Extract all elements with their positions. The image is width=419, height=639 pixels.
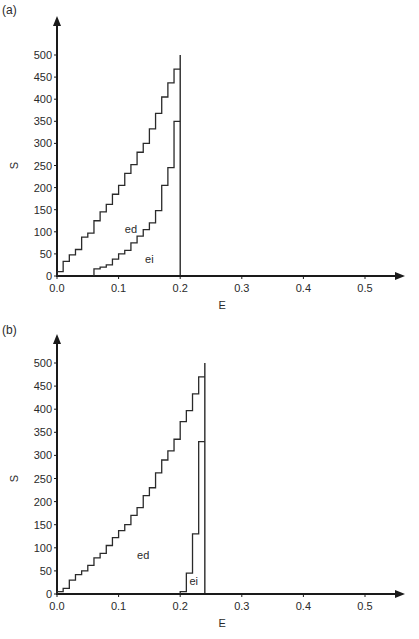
y-tick-label: 300	[34, 449, 52, 461]
x-axis-arrow-icon	[395, 272, 405, 280]
x-axis-title: E	[219, 617, 226, 629]
y-tick-label: 500	[34, 49, 52, 61]
y-axis-arrow-icon	[53, 334, 61, 344]
series-ei-step-line	[180, 442, 205, 594]
x-tick-label: 0.5	[357, 282, 372, 294]
x-tick-label: 0.5	[357, 600, 372, 612]
x-tick-label: 0.0	[49, 282, 64, 294]
x-tick-label: 0.3	[234, 600, 249, 612]
x-axis-title: E	[219, 299, 226, 311]
x-tick-label: 0.4	[296, 600, 311, 612]
chart-panel-b: (b)0501001502002503003504004505000.00.10…	[0, 320, 419, 639]
y-tick-label: 500	[34, 357, 52, 369]
y-tick-label: 450	[34, 71, 52, 83]
series-ed-step-line	[57, 377, 205, 594]
y-axis-title: S	[8, 475, 20, 482]
y-tick-label: 350	[34, 115, 52, 127]
y-tick-label: 450	[34, 380, 52, 392]
y-tick-label: 100	[34, 226, 52, 238]
x-tick-label: 0.3	[234, 282, 249, 294]
series-ei-step-line	[94, 121, 180, 276]
y-tick-label: 200	[34, 496, 52, 508]
x-axis-arrow-icon	[395, 590, 405, 598]
y-tick-label: 400	[34, 93, 52, 105]
y-tick-label: 300	[34, 137, 52, 149]
series-ed-step-line	[57, 69, 180, 276]
y-tick-label: 150	[34, 519, 52, 531]
x-tick-label: 0.4	[296, 282, 311, 294]
chart-a-canvas: (a)0501001502002503003504004505000.00.10…	[0, 0, 419, 320]
x-tick-label: 0.1	[111, 282, 126, 294]
y-tick-label: 0	[46, 588, 52, 600]
y-tick-label: 200	[34, 182, 52, 194]
y-tick-label: 0	[46, 270, 52, 282]
y-axis-arrow-icon	[53, 16, 61, 26]
x-tick-label: 0.0	[49, 600, 64, 612]
series-label-ei: ei	[189, 575, 198, 587]
y-tick-label: 250	[34, 473, 52, 485]
y-tick-label: 350	[34, 426, 52, 438]
series-label-ed: ed	[137, 549, 149, 561]
y-tick-label: 50	[40, 248, 52, 260]
x-tick-label: 0.1	[111, 600, 126, 612]
y-tick-label: 400	[34, 403, 52, 415]
y-tick-label: 50	[40, 565, 52, 577]
y-axis-title: S	[8, 162, 20, 169]
x-tick-label: 0.2	[173, 600, 188, 612]
y-tick-label: 150	[34, 204, 52, 216]
chart-b-canvas: (b)0501001502002503003504004505000.00.10…	[0, 320, 419, 639]
chart-panel-a: (a)0501001502002503003504004505000.00.10…	[0, 0, 419, 320]
panel-label: (b)	[2, 323, 17, 337]
series-label-ed: ed	[125, 223, 137, 235]
panel-label: (a)	[2, 3, 17, 17]
series-label-ei: ei	[145, 253, 154, 265]
y-tick-label: 100	[34, 542, 52, 554]
x-tick-label: 0.2	[173, 282, 188, 294]
y-tick-label: 250	[34, 160, 52, 172]
